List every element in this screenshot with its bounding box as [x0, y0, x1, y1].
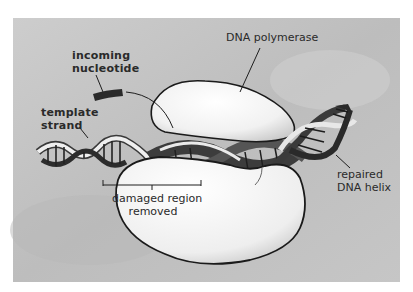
label-template-strand-line1: template — [41, 107, 99, 119]
diagram-illustration — [0, 0, 413, 292]
label-damaged-region-line1: damaged region — [112, 193, 194, 205]
label-incoming-nucleotide-line2: nucleotide — [72, 63, 139, 75]
label-repaired-helix-line1: repaired — [337, 169, 383, 181]
label-template-strand-line2: strand — [41, 120, 83, 132]
label-damaged-region-line2: removed — [112, 206, 194, 218]
diagram-stage: DNA polymerase incoming nucleotide templ… — [0, 0, 413, 292]
label-repaired-helix-line2: DNA helix — [337, 182, 391, 194]
label-incoming-nucleotide-line1: incoming — [72, 50, 130, 62]
label-dna-polymerase: DNA polymerase — [226, 32, 318, 44]
